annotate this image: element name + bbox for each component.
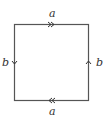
bottom-edge-label: a: [49, 106, 56, 117]
top-edge-label: a: [49, 8, 56, 19]
right-edge-label: b: [96, 57, 103, 68]
square-outline: [15, 25, 89, 101]
left-edge-label: b: [2, 57, 9, 68]
